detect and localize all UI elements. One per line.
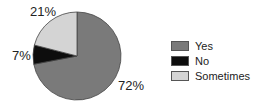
legend-label-sometimes: Sometimes <box>195 70 250 82</box>
swatch-no <box>171 56 189 66</box>
swatch-yes <box>171 41 189 51</box>
swatch-sometimes <box>171 71 189 81</box>
legend: Yes No Sometimes <box>171 38 250 83</box>
legend-label-yes: Yes <box>195 40 213 52</box>
label-no-pct: 7% <box>12 49 31 62</box>
pie-slices <box>33 12 121 100</box>
legend-item-sometimes: Sometimes <box>171 68 250 83</box>
legend-label-no: No <box>195 55 209 67</box>
label-sometimes-pct: 21% <box>30 5 56 18</box>
label-yes-pct: 72% <box>118 79 144 92</box>
legend-item-no: No <box>171 53 250 68</box>
legend-item-yes: Yes <box>171 38 250 53</box>
